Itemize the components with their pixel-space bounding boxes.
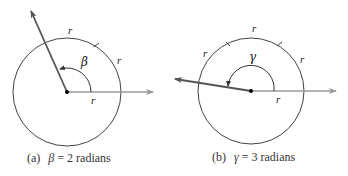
angle-symbol-a: β <box>80 55 88 69</box>
angle-arc-b <box>228 65 274 91</box>
radius-label-b: r <box>276 93 281 105</box>
arc-label-a-right: r <box>117 54 122 66</box>
caption-a-prefix: (a) <box>27 151 40 165</box>
caption-a-symbol: β <box>47 151 54 165</box>
arc-tick-b-1 <box>277 42 282 46</box>
caption-b-suffix: = 3 radians <box>242 150 296 164</box>
caption-b-prefix: (b) <box>212 150 226 164</box>
radian-diagrams: r r r β (a) β = 2 radians r r r r γ (b) … <box>0 0 348 176</box>
figure-b: r r r r γ (b) γ = 3 radians <box>175 22 336 164</box>
terminal-ray-b <box>175 79 251 91</box>
angle-symbol-b: γ <box>249 50 257 64</box>
caption-b: (b) γ = 3 radians <box>212 150 295 164</box>
caption-a-suffix: = 2 radians <box>57 151 111 165</box>
center-point-b <box>249 89 253 93</box>
figure-a: r r r β (a) β = 2 radians <box>13 11 153 165</box>
caption-a: (a) β = 2 radians <box>27 151 111 165</box>
arc-label-b-left: r <box>203 47 208 59</box>
center-point-a <box>65 90 69 94</box>
arc-label-b-right: r <box>300 53 305 65</box>
caption-b-symbol: γ <box>234 150 239 164</box>
terminal-ray-a <box>31 11 67 92</box>
radius-label-a: r <box>91 94 96 106</box>
arc-label-b-top: r <box>252 22 257 34</box>
arc-label-a-top: r <box>68 24 73 36</box>
